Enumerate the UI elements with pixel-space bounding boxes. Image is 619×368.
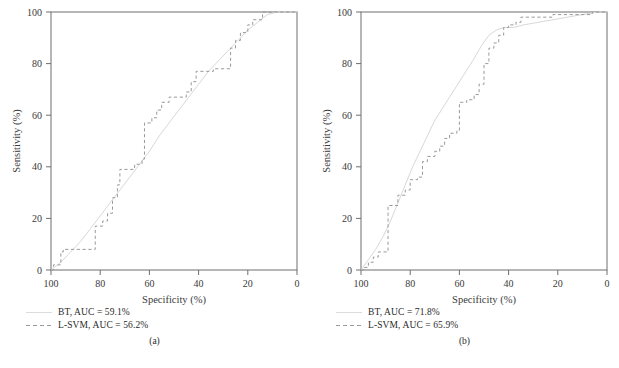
plot-border (361, 12, 607, 270)
legend-a: BT, AUC = 59.1% L-SVM, AUC = 56.2% (0, 306, 309, 332)
x-tick-label: 80 (95, 278, 105, 289)
legend-sample-solid-icon (26, 308, 52, 317)
y-tick-label: 80 (32, 58, 42, 69)
y-tick-label: 80 (342, 58, 352, 69)
y-tick-label: 0 (347, 265, 352, 276)
roc-plot-b: 100806040200020406080100Specificity (%)S… (310, 0, 619, 306)
y-tick-label: 100 (27, 7, 42, 18)
legend-label-lsvm: L-SVM, AUC = 65.9% (368, 319, 458, 332)
legend-row-bt: BT, AUC = 71.8% (310, 306, 619, 319)
x-tick-label: 80 (405, 278, 415, 289)
legend-label-lsvm: L-SVM, AUC = 56.2% (58, 319, 148, 332)
x-tick-label: 20 (243, 278, 253, 289)
panel-caption-a: (a) (0, 336, 309, 346)
legend-row-lsvm: L-SVM, AUC = 56.2% (0, 319, 309, 332)
roc-figure: 100806040200020406080100Specificity (%)S… (0, 0, 619, 368)
y-tick-label: 60 (342, 110, 352, 121)
legend-sample-dashed-icon (336, 321, 362, 330)
y-axis-title: Sensitivity (%) (11, 109, 23, 173)
legend-label-bt: BT, AUC = 59.1% (58, 306, 130, 319)
roc-curve-l-svm (361, 12, 607, 270)
panel-caption-b: (b) (310, 336, 619, 346)
legend-row-bt: BT, AUC = 59.1% (0, 306, 309, 319)
y-tick-label: 0 (37, 265, 42, 276)
panel-a: 100806040200020406080100Specificity (%)S… (0, 0, 309, 368)
x-axis-title: Specificity (%) (142, 294, 206, 306)
x-tick-label: 100 (354, 278, 369, 289)
x-tick-label: 100 (44, 278, 59, 289)
y-tick-label: 20 (342, 213, 352, 224)
roc-curve-bt (361, 12, 607, 270)
x-tick-label: 60 (454, 278, 464, 289)
roc-plot-a: 100806040200020406080100Specificity (%)S… (0, 0, 309, 306)
x-tick-label: 40 (504, 278, 514, 289)
x-axis-title: Specificity (%) (452, 294, 516, 306)
roc-curve-bt (51, 12, 297, 270)
x-tick-label: 40 (194, 278, 204, 289)
x-tick-label: 0 (295, 278, 300, 289)
legend-sample-dashed-icon (26, 321, 52, 330)
x-tick-label: 20 (553, 278, 563, 289)
legend-label-bt: BT, AUC = 71.8% (368, 306, 440, 319)
y-tick-label: 40 (342, 161, 352, 172)
y-tick-label: 60 (32, 110, 42, 121)
legend-sample-solid-icon (336, 308, 362, 317)
y-tick-label: 20 (32, 213, 42, 224)
x-tick-label: 0 (605, 278, 610, 289)
y-tick-label: 100 (337, 7, 352, 18)
panel-b: 100806040200020406080100Specificity (%)S… (310, 0, 619, 368)
x-tick-label: 60 (144, 278, 154, 289)
y-tick-label: 40 (32, 161, 42, 172)
y-axis-title: Sensitivity (%) (321, 109, 333, 173)
legend-row-lsvm: L-SVM, AUC = 65.9% (310, 319, 619, 332)
legend-b: BT, AUC = 71.8% L-SVM, AUC = 65.9% (310, 306, 619, 332)
